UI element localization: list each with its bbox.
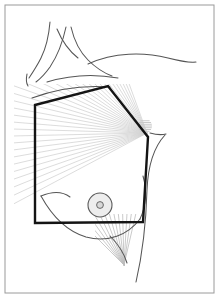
nipple-areola-complex: [88, 193, 112, 217]
figure-background: [0, 0, 219, 298]
figure-root: [0, 0, 219, 298]
anatomical-diagram-svg: [0, 0, 219, 298]
nipple-inner-circle: [97, 202, 104, 209]
